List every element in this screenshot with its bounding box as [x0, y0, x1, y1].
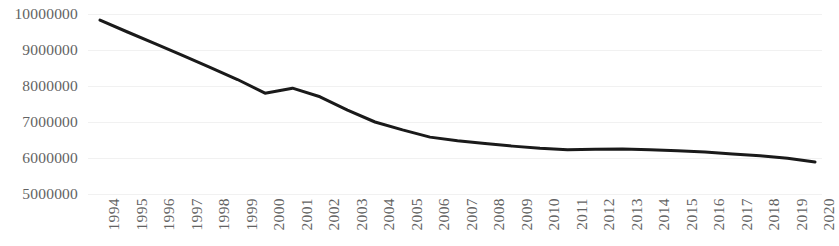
x-axis: 1994199519961997199819992000200120022003…	[88, 198, 822, 246]
y-axis-tick-label: 7000000	[22, 114, 78, 130]
plot-area	[88, 0, 822, 196]
y-axis: 1000000090000008000000700000060000005000…	[0, 0, 84, 246]
x-axis-tick-label: 2020	[821, 198, 839, 244]
y-axis-tick-label: 6000000	[22, 150, 78, 166]
data-series-line	[88, 0, 822, 196]
y-axis-tick-label: 9000000	[22, 42, 78, 58]
y-axis-tick-label: 8000000	[22, 78, 78, 94]
series-line	[100, 20, 815, 162]
y-axis-tick-label: 5000000	[22, 186, 78, 202]
y-axis-tick-label: 10000000	[14, 6, 78, 22]
